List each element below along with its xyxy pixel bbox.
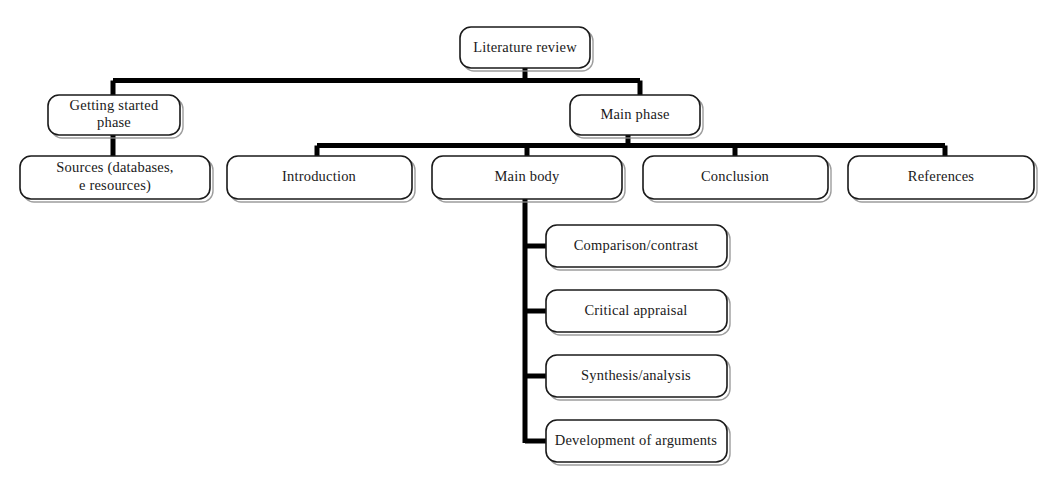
node-main-phase[interactable]: Main phase xyxy=(570,95,703,138)
connector-layer xyxy=(113,68,945,443)
node-label-getting-started-phase-line2: phase xyxy=(97,114,131,130)
node-label-comparison-contrast: Comparison/contrast xyxy=(574,237,699,253)
node-references[interactable]: References xyxy=(848,156,1037,202)
node-development-of-arguments[interactable]: Development of arguments xyxy=(546,420,730,465)
node-conclusion[interactable]: Conclusion xyxy=(643,156,831,202)
node-introduction[interactable]: Introduction xyxy=(227,156,415,202)
node-label-synthesis-analysis: Synthesis/analysis xyxy=(581,367,691,383)
node-comparison-contrast[interactable]: Comparison/contrast xyxy=(546,225,730,270)
node-getting-started-phase[interactable]: Getting started phase xyxy=(48,95,183,138)
node-main-body[interactable]: Main body xyxy=(432,156,625,202)
literature-review-flowchart: Literature review Getting started phase … xyxy=(0,0,1053,484)
node-label-conclusion: Conclusion xyxy=(701,168,770,184)
node-label-main-body: Main body xyxy=(494,168,560,184)
node-label-sources-line1: Sources (databases, xyxy=(56,159,173,176)
node-label-main-phase: Main phase xyxy=(600,106,669,122)
node-label-introduction: Introduction xyxy=(282,168,357,184)
node-label-references: References xyxy=(908,168,975,184)
flowchart-canvas: Literature review Getting started phase … xyxy=(0,0,1053,484)
node-synthesis-analysis[interactable]: Synthesis/analysis xyxy=(546,355,730,400)
node-label-getting-started-phase-line1: Getting started xyxy=(70,97,159,113)
node-label-sources-line2: e resources) xyxy=(79,177,151,194)
node-label-literature-review: Literature review xyxy=(473,39,577,55)
node-literature-review[interactable]: Literature review xyxy=(460,27,593,71)
node-label-critical-appraisal: Critical appraisal xyxy=(584,302,687,318)
node-critical-appraisal[interactable]: Critical appraisal xyxy=(546,290,730,335)
node-sources[interactable]: Sources (databases, e resources) xyxy=(20,156,213,202)
node-label-development-of-arguments: Development of arguments xyxy=(555,432,718,448)
